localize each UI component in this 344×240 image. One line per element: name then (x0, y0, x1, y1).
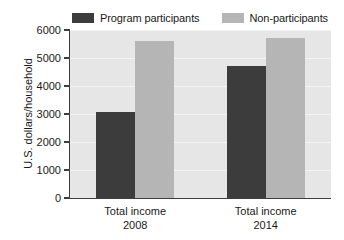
y-axis-tick (64, 57, 70, 58)
x-axis-group-label-line2: 2008 (75, 219, 195, 233)
chart-legend: Program participants Non-participants (70, 8, 332, 28)
legend-entry-non-participants: Non-participants (222, 13, 329, 24)
legend-swatch-non-participants (222, 13, 244, 23)
legend-entry-program-participants: Program participants (72, 13, 200, 24)
y-axis-tick-label: 4000 (11, 81, 61, 92)
y-axis-tick (64, 29, 70, 30)
legend-label-non-participants: Non-participants (250, 13, 329, 24)
bar-program-participants-group-0 (96, 112, 135, 198)
y-axis-tick-label: 5000 (11, 53, 61, 64)
y-axis-tick-label: 1000 (11, 165, 61, 176)
y-axis-tick (64, 197, 70, 198)
bar-chart-figure: Program participants Non-participants U.… (0, 0, 344, 240)
y-axis-tick-label: 3000 (11, 109, 61, 120)
y-axis-tick-label: 2000 (11, 137, 61, 148)
grid-line (70, 30, 331, 31)
x-axis-group-label-line1: Total income (75, 205, 195, 219)
bar-non-participants-group-0 (135, 41, 174, 198)
bar-program-participants-group-1 (227, 66, 266, 198)
y-axis-tick (64, 113, 70, 114)
legend-label-program-participants: Program participants (100, 13, 200, 24)
x-axis-group-label-0: Total income2008 (75, 205, 195, 232)
y-axis-tick-label: 0 (11, 193, 61, 204)
y-axis-tick (64, 85, 70, 86)
bar-non-participants-group-1 (266, 38, 305, 198)
x-axis-group-label-1: Total income2014 (206, 205, 326, 232)
y-axis-tick-label: 6000 (11, 25, 61, 36)
x-axis-group-label-line1: Total income (206, 205, 326, 219)
legend-swatch-program-participants (72, 13, 94, 23)
y-axis-tick (64, 169, 70, 170)
y-axis-tick (64, 141, 70, 142)
x-axis-group-label-line2: 2014 (206, 219, 326, 233)
